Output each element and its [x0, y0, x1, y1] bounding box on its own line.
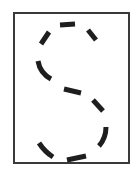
- frame-border: [14, 13, 129, 163]
- stroke-segment-top: [60, 24, 75, 25]
- dashed-s-svg: [0, 0, 138, 171]
- dashed-letter-figure: S: [0, 0, 138, 171]
